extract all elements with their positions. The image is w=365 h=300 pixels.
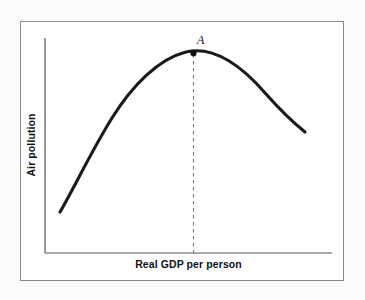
point-a-label: A: [197, 34, 204, 46]
y-axis-title: Air pollution: [24, 100, 38, 190]
point-a-marker: [190, 50, 196, 56]
x-axis-title: Real GDP per person: [45, 258, 332, 270]
figure-root: A Real GDP per person Air pollution: [0, 0, 365, 300]
pollution-curve: [60, 51, 305, 212]
y-axis-title-text: Air pollution: [25, 113, 37, 176]
chart-canvas: [0, 0, 365, 300]
